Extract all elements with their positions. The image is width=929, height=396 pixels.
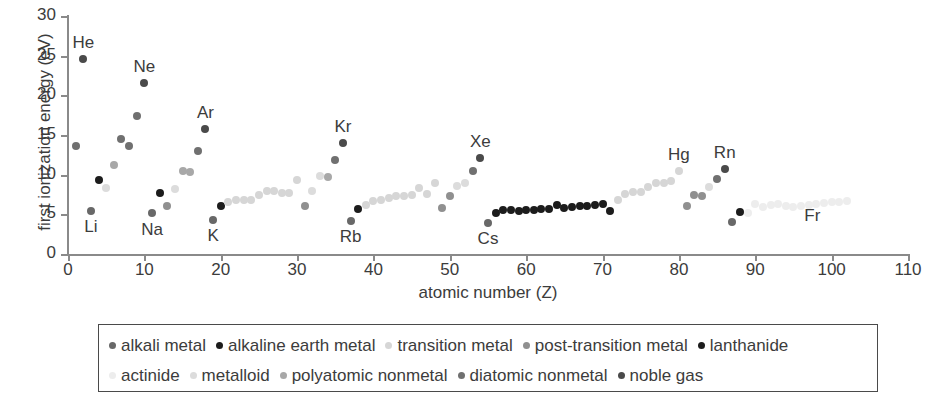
y-tick-mark bbox=[61, 254, 69, 256]
y-tick-label: 30 bbox=[0, 5, 56, 25]
data-point bbox=[110, 161, 118, 169]
element-label: Kr bbox=[334, 117, 351, 137]
data-point bbox=[186, 168, 194, 176]
legend-label: alkali metal bbox=[121, 337, 206, 354]
element-label: Na bbox=[141, 220, 163, 240]
legend-label: alkaline earth metal bbox=[228, 337, 375, 354]
x-axis-line bbox=[68, 254, 909, 256]
data-point bbox=[614, 196, 622, 204]
element-label: Rn bbox=[714, 143, 736, 163]
y-tick-label: 5 bbox=[0, 203, 56, 223]
element-label: Fr bbox=[804, 206, 820, 226]
data-point bbox=[469, 167, 477, 175]
x-tick-label: 100 bbox=[802, 260, 862, 280]
element-label: Xe bbox=[470, 132, 491, 152]
y-tick-label: 0 bbox=[0, 243, 56, 263]
x-tick-label: 30 bbox=[267, 260, 327, 280]
legend-label: actinide bbox=[121, 367, 180, 384]
legend-swatch-icon bbox=[698, 342, 705, 349]
element-label: Rb bbox=[340, 227, 362, 247]
data-point bbox=[156, 189, 164, 197]
element-label: He bbox=[72, 33, 94, 53]
legend-label: polyatomic nonmetal bbox=[292, 367, 448, 384]
y-tick-label: 25 bbox=[0, 45, 56, 65]
x-axis-title: atomic number (Z) bbox=[68, 283, 908, 303]
x-tick-label: 50 bbox=[420, 260, 480, 280]
legend-row: actinidemetalloidpolyatomic nonmetaldiat… bbox=[109, 363, 869, 387]
legend-label: diatomic nonmetal bbox=[470, 367, 608, 384]
data-point bbox=[415, 184, 423, 192]
data-point bbox=[484, 219, 492, 227]
legend-item: transition metal bbox=[385, 337, 512, 354]
data-point bbox=[79, 55, 87, 63]
data-point bbox=[774, 200, 782, 208]
data-point bbox=[255, 191, 263, 199]
data-point bbox=[744, 209, 752, 217]
element-label: K bbox=[207, 226, 218, 246]
ionization-energy-chart: first ionization energy (eV) atomic numb… bbox=[0, 0, 929, 396]
data-point bbox=[285, 189, 293, 197]
data-point bbox=[247, 196, 255, 204]
element-label: Cs bbox=[478, 229, 499, 249]
x-tick-label: 10 bbox=[114, 260, 174, 280]
data-point bbox=[102, 184, 110, 192]
legend-label: noble gas bbox=[630, 367, 704, 384]
data-point bbox=[507, 206, 515, 214]
data-point bbox=[354, 205, 362, 213]
data-point bbox=[163, 202, 171, 210]
legend-swatch-icon bbox=[109, 342, 116, 349]
data-point bbox=[95, 176, 103, 184]
data-point bbox=[324, 173, 332, 181]
legend-row: alkali metalalkaline earth metaltransiti… bbox=[109, 333, 869, 357]
data-point bbox=[721, 165, 729, 173]
element-label: Hg bbox=[668, 145, 690, 165]
plot-area: HeLiNeNaArKKrRbXeCsHgRnFr bbox=[68, 16, 908, 254]
legend-swatch-icon bbox=[109, 372, 116, 379]
data-point bbox=[545, 205, 553, 213]
legend-swatch-icon bbox=[280, 372, 287, 379]
data-point bbox=[125, 142, 133, 150]
data-point bbox=[705, 183, 713, 191]
legend-item: metalloid bbox=[190, 367, 270, 384]
data-point bbox=[644, 183, 652, 191]
data-point bbox=[698, 192, 706, 200]
data-point bbox=[423, 190, 431, 198]
y-tick-label: 20 bbox=[0, 84, 56, 104]
x-tick-label: 110 bbox=[878, 260, 929, 280]
data-point bbox=[629, 188, 637, 196]
legend-label: post-transition metal bbox=[535, 337, 688, 354]
data-point bbox=[347, 217, 355, 225]
data-point bbox=[270, 187, 278, 195]
legend-item: polyatomic nonmetal bbox=[280, 367, 448, 384]
element-label: Li bbox=[84, 217, 97, 237]
data-point bbox=[171, 185, 179, 193]
data-point bbox=[568, 203, 576, 211]
data-point bbox=[461, 179, 469, 187]
data-point bbox=[599, 200, 607, 208]
data-point bbox=[316, 172, 324, 180]
data-point bbox=[843, 197, 851, 205]
data-point bbox=[522, 206, 530, 214]
legend-item: post-transition metal bbox=[523, 337, 688, 354]
data-point bbox=[476, 154, 484, 162]
data-point bbox=[835, 198, 843, 206]
data-point bbox=[728, 218, 736, 226]
legend-swatch-icon bbox=[385, 342, 392, 349]
data-point bbox=[194, 147, 202, 155]
data-point bbox=[438, 204, 446, 212]
legend: alkali metalalkaline earth metaltransiti… bbox=[98, 324, 878, 392]
data-point bbox=[148, 209, 156, 217]
data-point bbox=[293, 176, 301, 184]
x-tick-label: 0 bbox=[38, 260, 98, 280]
legend-item: alkali metal bbox=[109, 337, 206, 354]
data-point bbox=[431, 179, 439, 187]
legend-item: lanthanide bbox=[698, 337, 788, 354]
y-tick-label: 15 bbox=[0, 124, 56, 144]
y-tick-label: 10 bbox=[0, 164, 56, 184]
data-point bbox=[339, 139, 347, 147]
legend-label: metalloid bbox=[202, 367, 270, 384]
data-point bbox=[209, 216, 217, 224]
legend-label: lanthanide bbox=[710, 337, 788, 354]
data-point bbox=[201, 125, 209, 133]
data-point bbox=[331, 156, 339, 164]
